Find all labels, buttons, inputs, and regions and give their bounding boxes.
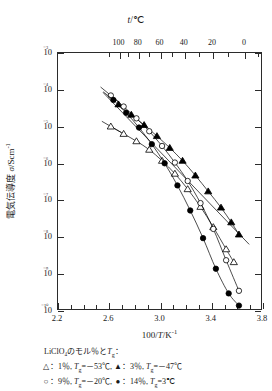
plot-area <box>57 52 262 310</box>
y-axis-tick <box>255 311 261 312</box>
data-point-filled-circle <box>213 266 218 271</box>
top-axis-tick-label: 100 <box>113 38 125 47</box>
y-axis-tick-label: 10⁻⁹ <box>44 268 53 278</box>
top-axis-title: t/℃ <box>0 14 272 25</box>
data-point-filled-circle <box>200 235 205 240</box>
x-axis-tick-label: 3.0 <box>154 313 165 323</box>
y-axis-symbol: σ <box>6 167 16 171</box>
top-axis-tick-label: 60 <box>156 38 164 47</box>
data-point-filled-circle <box>175 183 180 188</box>
x-axis-title-prefix: 100/ <box>142 330 158 340</box>
top-axis-tick-label: 20 <box>208 38 216 47</box>
data-point-open-circle <box>159 143 164 148</box>
x-axis-tick-label: 3.8 <box>257 313 268 323</box>
legend-entry-14pct-value: =3℃ <box>157 377 175 386</box>
marker-open-circle-icon: ○ <box>42 376 50 388</box>
x-axis-tick-label: 2.2 <box>52 313 63 323</box>
data-point-open-triangle <box>184 186 191 192</box>
data-point-filled-circle <box>123 110 128 115</box>
series-line <box>111 126 234 262</box>
legend: LiClO₄のモル％とTg： △：1％, Tg=－53℃, ▲：3％, Tg=－… <box>0 346 272 391</box>
data-point-filled-triangle <box>235 231 242 237</box>
marker-open-triangle-icon: △ <box>42 361 50 373</box>
legend-entry-3pct-value: =－47℃ <box>153 362 182 371</box>
x-axis-unit: /K <box>163 330 172 340</box>
y-axis-tick-label: 10⁻⁸ <box>44 231 53 241</box>
legend-title-text: LiClO₄のモル％と <box>44 347 107 356</box>
top-axis-tick-label: 40 <box>180 38 188 47</box>
data-point-open-circle <box>236 288 241 293</box>
data-point-filled-circle <box>162 161 167 166</box>
data-point-open-circle <box>198 200 203 205</box>
series-line <box>111 95 239 290</box>
data-point-open-circle <box>185 178 190 183</box>
marker-filled-triangle-icon: ▲ <box>114 361 122 373</box>
series-9pct <box>101 87 242 294</box>
x-axis-exponent: -1 <box>172 328 177 335</box>
data-series-svg <box>57 52 262 310</box>
data-point-filled-circle <box>226 291 231 296</box>
data-point-filled-triangle <box>228 219 235 225</box>
data-point-filled-triangle <box>205 188 212 194</box>
x-axis-tick-labels: 2.22.63.03.43.8 <box>57 313 262 325</box>
data-point-open-circle <box>211 226 216 231</box>
legend-row: △：1％, Tg=－53℃, ▲：3％, Tg=－47℃ <box>0 361 272 376</box>
data-point-open-circle <box>134 116 139 121</box>
data-point-open-circle <box>223 258 228 263</box>
legend-entry-14pct-text: ：14％, <box>122 377 150 386</box>
y-axis-tick <box>58 311 64 312</box>
series-14pct <box>103 92 242 308</box>
legend-entry-9pct-text: ：9％, <box>50 377 74 386</box>
data-point-open-triangle <box>107 123 114 129</box>
data-point-filled-circle <box>236 303 241 308</box>
series-line <box>113 100 239 306</box>
data-point-filled-circle <box>149 141 154 146</box>
data-point-filled-circle <box>136 125 141 130</box>
data-point-open-circle <box>172 160 177 165</box>
y-axis-title-jp: 電気伝導度 <box>6 174 16 219</box>
top-axis-unit: /℃ <box>130 15 144 25</box>
y-axis-unit: /Scm <box>6 149 16 168</box>
legend-entry-9pct-value: =－20℃, <box>81 377 114 386</box>
y-axis-tick-label: 10⁻³ <box>44 47 53 57</box>
top-axis-tick-label: 0 <box>242 38 246 47</box>
data-point-open-triangle <box>230 259 237 265</box>
legend-entry-3pct-text: ：3％, <box>122 362 146 371</box>
legend-row: ○：9％, Tg=－20℃, ●：14％, Tg=3℃ <box>0 376 272 391</box>
legend-title-colon: ： <box>115 347 123 356</box>
y-axis-tick-label: 10⁻⁵ <box>44 121 53 131</box>
y-axis-title: 電気伝導度 σ/Scm-1 <box>4 143 17 219</box>
legend-entry-1pct-value: =－53℃, <box>81 362 114 371</box>
top-axis-tick-label: 80 <box>134 38 142 47</box>
y-axis-exponent: -1 <box>4 143 11 148</box>
y-axis-tick-label: 10⁻⁷ <box>44 194 53 204</box>
data-point-open-triangle <box>120 130 127 136</box>
x-axis-title: 100/T/K-1 <box>57 328 262 340</box>
x-axis-tick <box>263 303 264 309</box>
series-1pct <box>102 121 238 264</box>
x-axis-tick-label: 3.4 <box>205 313 216 323</box>
legend-entry-1pct-text: ：1％, <box>50 362 74 371</box>
data-point-filled-circle <box>111 97 116 102</box>
y-axis-tick-label: 10⁻⁴ <box>44 84 53 94</box>
data-point-filled-triangle <box>217 204 224 210</box>
legend-title: LiClO₄のモル％とTg： <box>0 346 272 361</box>
x-axis-tick-label: 2.6 <box>103 313 114 323</box>
y-axis-tick-label: 10⁻⁶ <box>44 158 53 168</box>
data-point-filled-circle <box>188 208 193 213</box>
data-point-open-triangle <box>223 246 230 252</box>
marker-filled-circle-icon: ● <box>114 376 122 388</box>
data-point-open-triangle <box>133 138 140 144</box>
data-point-open-circle <box>147 129 152 134</box>
top-axis-tick-labels: 100806040200 <box>57 38 262 50</box>
